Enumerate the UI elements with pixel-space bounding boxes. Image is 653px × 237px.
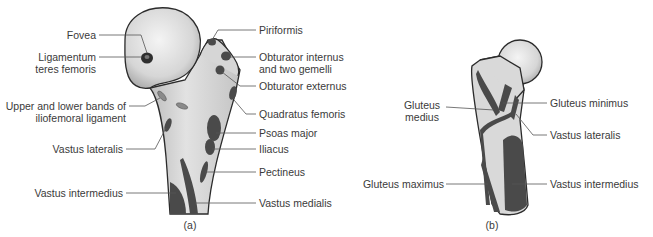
label-piriformis: Piriformis: [259, 24, 303, 36]
label-iliacus: Iliacus: [259, 143, 289, 155]
label-obturator-externus: Obturator externus: [259, 80, 347, 92]
label-vastus-medialis: Vastus medialis: [259, 197, 332, 209]
caption-a: (a): [178, 219, 202, 231]
label-gluteus-minimus: Gluteus minimus: [550, 97, 628, 109]
femur-posterior-view: [471, 40, 542, 215]
label-vastus-lateralis-a: Vastus lateralis: [53, 143, 123, 155]
label-iliofemoral-ligament: Upper and lower bands of iliofemoral lig…: [6, 100, 126, 124]
label-quadratus-femoris: Quadratus femoris: [259, 108, 345, 120]
label-vastus-intermedius-a: Vastus intermedius: [34, 187, 123, 199]
label-gluteus-medius: Gluteus medius: [400, 99, 444, 123]
label-ligamentum-teres-femoris: Ligamentum teres femoris: [35, 51, 96, 75]
label-vastus-intermedius-b: Vastus intermedius: [550, 178, 639, 190]
label-obturator-internus: Obturator internus and two gemelli: [259, 51, 344, 75]
label-gluteus-maximus: Gluteus maximus: [363, 178, 444, 190]
label-pectineus: Pectineus: [259, 166, 305, 178]
label-psoas-major: Psoas major: [259, 127, 317, 139]
caption-b: (b): [480, 219, 504, 231]
label-fovea: Fovea: [67, 29, 96, 41]
label-vastus-lateralis-b: Vastus lateralis: [550, 129, 620, 141]
